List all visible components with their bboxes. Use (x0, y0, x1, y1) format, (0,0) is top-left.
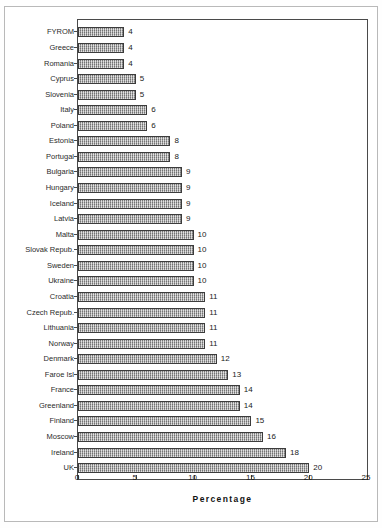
bar-value-label: 11 (209, 321, 217, 334)
bar-value-label: 10 (198, 228, 207, 241)
category-label: Slovenia (45, 88, 74, 101)
bar-row: Moscow16 (78, 430, 367, 444)
y-axis-tick (74, 187, 78, 188)
bar-value-label: 12 (221, 352, 230, 365)
bar (78, 43, 124, 53)
bar-value-label: 10 (198, 259, 207, 272)
bar-row: Denmark12 (78, 352, 367, 366)
bar-value-label: 4 (128, 25, 132, 38)
category-label: Greenland (39, 399, 74, 412)
y-axis-tick (74, 436, 78, 437)
bar-value-label: 4 (128, 57, 132, 70)
y-axis-tick (74, 467, 78, 468)
bar (78, 370, 228, 380)
y-axis-tick (74, 234, 78, 235)
bar-value-label: 5 (140, 88, 144, 101)
y-axis-tick (74, 203, 78, 204)
bar-row: Slovak Repub.10 (78, 243, 367, 257)
bar-row: Romania4 (78, 57, 367, 71)
y-axis-tick (74, 420, 78, 421)
bar-row: Malta10 (78, 228, 367, 242)
bar-value-label: 16 (267, 430, 276, 443)
bar (78, 354, 217, 364)
bar-row: France14 (78, 383, 367, 397)
x-axis-title: Percentage (77, 494, 368, 504)
bar-row: Croatia11 (78, 290, 367, 304)
bar-value-label: 6 (151, 119, 155, 132)
bar-row: Sweden10 (78, 259, 367, 273)
bar-row: Faroe Isl13 (78, 368, 367, 382)
bar-value-label: 11 (209, 337, 217, 350)
bar-value-label: 14 (244, 383, 253, 396)
bar-value-label: 9 (186, 165, 190, 178)
y-axis-tick (74, 47, 78, 48)
category-label: Cyprus (50, 72, 74, 85)
x-axis-tick-label: 0 (75, 473, 79, 482)
bar-value-label: 9 (186, 212, 190, 225)
bar-row: Portugal8 (78, 150, 367, 164)
y-axis-tick (74, 280, 78, 281)
bar-value-label: 18 (290, 446, 299, 459)
bar-row: Slovenia5 (78, 88, 367, 102)
bar-row: UK20 (78, 461, 367, 475)
category-label: Faroe Isl (45, 368, 74, 381)
bar (78, 416, 251, 426)
y-axis-tick (74, 452, 78, 453)
bar (78, 183, 182, 193)
bar (78, 323, 205, 333)
bar-value-label: 6 (151, 103, 155, 116)
y-axis-tick (74, 312, 78, 313)
bar-row: Hungary9 (78, 181, 367, 195)
bar (78, 292, 205, 302)
bar (78, 214, 182, 224)
y-axis-tick (74, 140, 78, 141)
y-axis-tick (74, 109, 78, 110)
bar-row: Iceland9 (78, 197, 367, 211)
bar-row: Italy6 (78, 103, 367, 117)
category-label: Romania (44, 57, 74, 70)
bar-row: Ireland18 (78, 446, 367, 460)
bar (78, 308, 205, 318)
category-label: Croatia (50, 290, 74, 303)
y-axis-tick (74, 389, 78, 390)
bar (78, 59, 124, 69)
x-axis-tick-label: 5 (133, 473, 137, 482)
plot-area: FYROM4Greece4Romania4Cyprus5Slovenia5Ita… (77, 19, 368, 480)
category-label: Latvia (54, 212, 74, 225)
category-label: Iceland (50, 197, 74, 210)
y-axis-tick (74, 327, 78, 328)
category-label: Slovak Repub. (25, 243, 74, 256)
bar-value-label: 15 (255, 414, 264, 427)
bar-row: Norway11 (78, 337, 367, 351)
bar-row: Cyprus5 (78, 72, 367, 86)
bar (78, 463, 309, 473)
bar-value-label: 8 (174, 150, 178, 163)
bar (78, 385, 240, 395)
bar-row: Czech Repub.11 (78, 306, 367, 320)
bar (78, 136, 170, 146)
y-axis-tick (74, 171, 78, 172)
x-axis-tick-label: 15 (246, 473, 255, 482)
bar (78, 199, 182, 209)
y-axis-tick (74, 218, 78, 219)
bar-value-label: 8 (174, 134, 178, 147)
category-label: Czech Repub. (26, 306, 74, 319)
y-axis-tick (74, 358, 78, 359)
category-label: Ukraine (48, 274, 74, 287)
bar (78, 339, 205, 349)
bar-value-label: 14 (244, 399, 253, 412)
bar-value-label: 9 (186, 197, 190, 210)
category-label: Norway (49, 337, 74, 350)
category-label: Moscow (46, 430, 74, 443)
bar-value-label: 13 (232, 368, 241, 381)
bar (78, 276, 194, 286)
bar-row: Lithuania11 (78, 321, 367, 335)
category-label: UK (64, 461, 74, 474)
category-label: France (51, 383, 74, 396)
x-axis-tick-label: 10 (188, 473, 197, 482)
y-axis-tick (74, 156, 78, 157)
figure-root: FYROM4Greece4Romania4Cyprus5Slovenia5Ita… (0, 0, 382, 528)
category-label: Poland (51, 119, 74, 132)
y-axis-tick (74, 94, 78, 95)
bar-row: Poland6 (78, 119, 367, 133)
